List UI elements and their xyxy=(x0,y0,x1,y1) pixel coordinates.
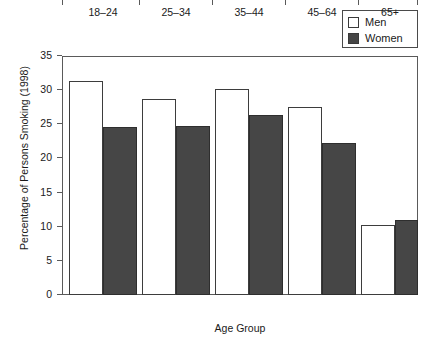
x-tick-label-25-34: 25–34 xyxy=(141,6,211,19)
y-tick-label: 0 xyxy=(24,288,52,300)
y-tick-label: 25 xyxy=(24,117,52,129)
x-tick-label-18-24: 18–24 xyxy=(68,6,138,19)
smoking-bar-chart-figure: Men Women Percentage of Persons Smoking … xyxy=(0,0,429,349)
legend-swatch-women-icon xyxy=(348,33,359,44)
bar-men-35-44[interactable] xyxy=(215,89,249,295)
x-tick-mark xyxy=(212,0,213,5)
legend-entry-women: Women xyxy=(348,30,417,46)
bar-women-35-44[interactable] xyxy=(249,115,283,295)
legend-label-women: Women xyxy=(365,33,403,44)
bar-men-65-plus[interactable] xyxy=(361,225,395,295)
x-tick-label-65-plus: 65+ xyxy=(355,6,425,19)
y-tick-label: 35 xyxy=(24,49,52,61)
x-tick-mark xyxy=(139,0,140,5)
bar-women-65-plus[interactable] xyxy=(395,220,418,295)
y-tick-label: 20 xyxy=(24,151,52,163)
y-tick-label: 5 xyxy=(24,254,52,266)
bar-women-25-34[interactable] xyxy=(176,126,210,295)
x-tick-label-45-64: 45–64 xyxy=(287,6,357,19)
y-tick-label: 15 xyxy=(24,186,52,198)
x-tick-mark xyxy=(358,0,359,5)
x-tick-mark xyxy=(285,0,286,5)
bar-men-25-34[interactable] xyxy=(142,99,176,295)
bar-women-45-64[interactable] xyxy=(322,143,356,295)
y-tick-label: 10 xyxy=(24,220,52,232)
x-tick-label-35-44: 35–44 xyxy=(214,6,284,19)
bar-men-45-64[interactable] xyxy=(288,107,322,295)
bar-men-18-24[interactable] xyxy=(69,81,103,295)
x-tick-mark xyxy=(417,0,418,5)
y-tick-label: 30 xyxy=(24,83,52,95)
x-axis-title: Age Group xyxy=(62,322,418,334)
x-tick-mark xyxy=(62,0,63,5)
bar-women-18-24[interactable] xyxy=(103,127,137,295)
